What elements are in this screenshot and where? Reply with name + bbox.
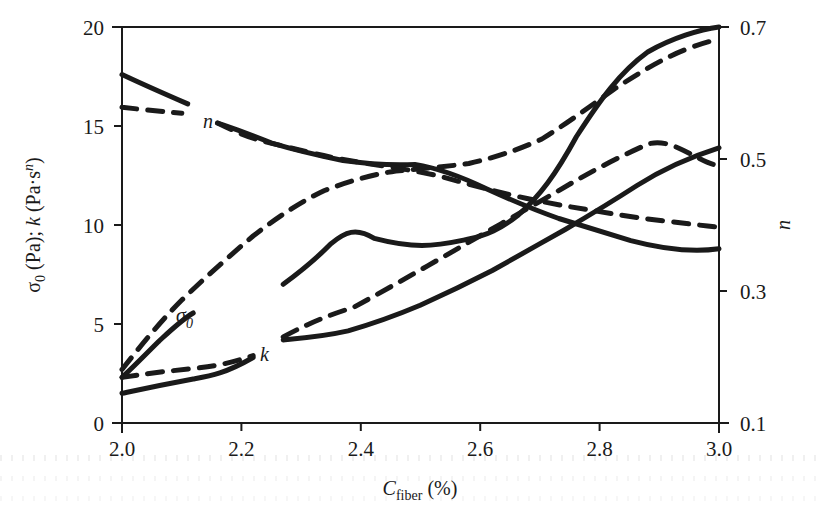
left-axis-tick-labels: 20 15 10 5 0 <box>83 16 104 436</box>
axis-frame <box>122 27 719 423</box>
left-tick-label-20: 20 <box>83 16 104 40</box>
curve-label-k: k <box>260 343 270 365</box>
y-axis-title-sigma-sub: 0 <box>33 275 48 282</box>
series-sigma0-dashed <box>122 39 719 370</box>
data-curves <box>122 27 719 393</box>
y-axis-title-k-sup: n <box>21 164 36 171</box>
x-axis-title-symbol: C <box>383 477 397 499</box>
svg-text:σ0 (Pa); k (Pa·sn): σ0 (Pa); k (Pa·sn) <box>21 157 48 292</box>
y2-axis-title-text: n <box>772 220 794 230</box>
bottom-tick-label-3-0: 3.0 <box>706 437 732 461</box>
bottom-axis-ticks <box>122 423 719 433</box>
y-axis-title-unit-b: (Pa·s <box>22 171 45 217</box>
x-axis-title: Cfiber (%) <box>383 477 458 503</box>
series-k-dashed-seg2 <box>283 143 719 337</box>
y2-axis-title: n <box>772 220 794 230</box>
bottom-axis-tick-labels: 2.0 2.2 2.4 2.6 2.8 3.0 <box>109 437 732 461</box>
series-n-dashed-seg1 <box>122 107 182 113</box>
bottom-tick-label-2-4: 2.4 <box>348 437 375 461</box>
series-n-solid-seg2 <box>218 123 720 250</box>
bottom-tick-label-2-0: 2.0 <box>109 437 135 461</box>
right-axis-ticks <box>719 27 729 423</box>
x-axis-title-subscript: fiber <box>396 488 423 503</box>
series-n-solid-seg1 <box>122 75 188 104</box>
x-axis-title-unit: (%) <box>422 477 457 500</box>
curve-label-sigma0-subscript: 0 <box>186 316 193 331</box>
curve-labels: n σ0 k <box>176 110 270 365</box>
left-tick-label-10: 10 <box>83 214 104 238</box>
left-tick-label-5: 5 <box>94 313 105 337</box>
right-tick-label-0-5: 0.5 <box>740 148 766 172</box>
rheology-line-chart: 20 15 10 5 0 0.7 0.5 0.3 0.1 <box>0 0 823 515</box>
left-axis-ticks <box>112 27 122 423</box>
y-axis-title-unit-a: (Pa); <box>22 226 45 275</box>
right-tick-label-0-3: 0.3 <box>740 280 766 304</box>
left-tick-label-0: 0 <box>94 412 105 436</box>
svg-text:Cfiber (%): Cfiber (%) <box>383 477 458 503</box>
y-axis-title: σ0 (Pa); k (Pa·sn) <box>21 157 48 292</box>
right-axis-tick-labels: 0.7 0.5 0.3 0.1 <box>740 16 766 436</box>
bottom-tick-label-2-6: 2.6 <box>467 437 493 461</box>
bottom-tick-label-2-2: 2.2 <box>228 437 254 461</box>
right-tick-label-0-7: 0.7 <box>740 16 766 40</box>
bottom-tick-label-2-8: 2.8 <box>586 437 612 461</box>
y-axis-title-close: ) <box>22 157 45 164</box>
figure-container: 20 15 10 5 0 0.7 0.5 0.3 0.1 <box>0 0 823 515</box>
series-n-dashed-seg2 <box>218 123 720 227</box>
y-axis-title-sigma: σ <box>22 282 44 293</box>
right-tick-label-0-1: 0.1 <box>740 412 766 436</box>
left-tick-label-15: 15 <box>83 115 104 139</box>
curve-label-n: n <box>203 110 213 132</box>
